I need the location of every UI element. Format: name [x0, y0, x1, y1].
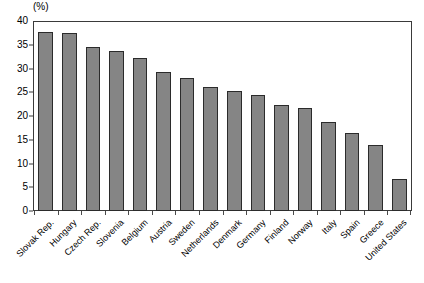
bar-slot: [270, 22, 294, 211]
bar-slot: [317, 22, 341, 211]
y-axis-tick-label: 20: [17, 111, 28, 121]
bar: [392, 179, 407, 211]
bar-slot: [223, 22, 247, 211]
x-axis-tick-mark: [175, 211, 176, 215]
bar: [345, 133, 360, 211]
bar-slot: [340, 22, 364, 211]
bar-chart: (%) 0510152025303540 Slovak Rep.HungaryC…: [0, 0, 424, 283]
y-axis-tick-label: 25: [17, 87, 28, 97]
x-axis-category-label-text: Italy: [319, 216, 339, 236]
bar: [298, 108, 313, 211]
y-axis-tick-label: 30: [17, 64, 28, 74]
bar: [274, 105, 289, 211]
bar: [227, 91, 242, 211]
bar: [321, 122, 336, 211]
x-axis-tick-mark: [387, 211, 388, 215]
bar-slot: [364, 22, 388, 211]
bar-slot: [58, 22, 82, 211]
y-axis-tick-label: 40: [17, 16, 28, 26]
bars-container: [34, 22, 411, 211]
bar: [180, 78, 195, 211]
bar: [38, 32, 53, 211]
bar-slot: [128, 22, 152, 211]
bar-slot: [105, 22, 129, 211]
bar: [109, 51, 124, 211]
y-axis-tick-label: 35: [17, 40, 28, 50]
x-axis-tick-mark: [105, 211, 106, 215]
y-axis-unit-label: (%): [33, 1, 49, 13]
x-axis-tick-mark: [340, 211, 341, 215]
x-axis-tick-mark: [364, 211, 365, 215]
x-axis-tick-mark: [128, 211, 129, 215]
y-axis-tick-label: 0: [22, 206, 28, 216]
x-axis-tick-mark: [246, 211, 247, 215]
bar-slot: [199, 22, 223, 211]
bar: [251, 95, 266, 211]
bar-slot: [387, 22, 411, 211]
bar-slot: [175, 22, 199, 211]
x-axis-tick-mark: [270, 211, 271, 215]
x-axis-tick-mark: [34, 211, 35, 215]
bar: [86, 47, 101, 211]
y-axis-tick-label: 5: [22, 182, 28, 192]
bar-slot: [152, 22, 176, 211]
bar: [368, 145, 383, 211]
y-axis-tick-label: 10: [17, 159, 28, 169]
x-axis-tick-mark: [293, 211, 294, 215]
bar-slot: [246, 22, 270, 211]
bar-slot: [34, 22, 58, 211]
bar: [203, 87, 218, 211]
bar: [62, 33, 77, 211]
x-axis-tick-mark: [81, 211, 82, 215]
x-axis-tick-mark: [199, 211, 200, 215]
x-axis-tick-mark: [223, 211, 224, 215]
y-axis: 0510152025303540: [0, 21, 33, 211]
x-axis-tick-mark: [317, 211, 318, 215]
x-axis-tick-mark: [58, 211, 59, 215]
bar-slot: [81, 22, 105, 211]
y-axis-tick-label: 15: [17, 135, 28, 145]
bar-slot: [293, 22, 317, 211]
x-axis-tick-mark: [410, 211, 411, 215]
x-axis-tick-mark: [152, 211, 153, 215]
bar: [156, 72, 171, 211]
x-axis-category-label: Italy: [319, 216, 339, 236]
bar: [133, 58, 148, 211]
x-axis-labels: Slovak Rep.HungaryCzech Rep.SloveniaBelg…: [34, 216, 411, 283]
